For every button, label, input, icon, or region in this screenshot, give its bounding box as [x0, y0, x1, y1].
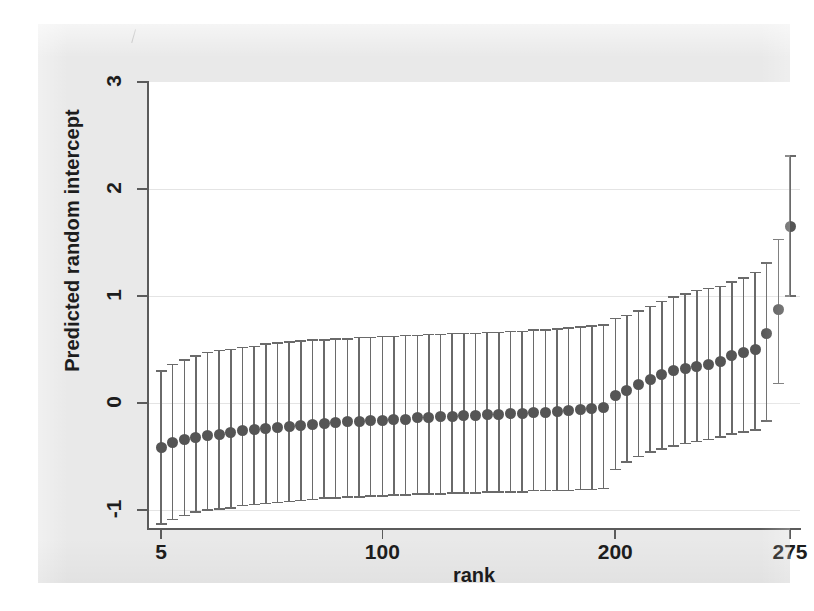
errorbar-cap-upper: [167, 364, 178, 366]
errorbar-cap-lower: [668, 445, 679, 447]
errorbar-cap-lower: [354, 496, 365, 498]
errorbar-cap-upper: [540, 329, 551, 331]
errorbar-cap-upper: [260, 343, 271, 345]
errorbar-cap-lower: [621, 461, 632, 463]
errorbar-cap-lower: [400, 494, 411, 496]
errorbar-cap-lower: [563, 490, 574, 492]
errorbar-cap-lower: [552, 490, 563, 492]
errorbar-cap-lower: [493, 491, 504, 493]
errorbar-cap-lower: [260, 503, 271, 505]
x-axis-line: [147, 528, 801, 530]
errorbar-cap-upper: [680, 293, 691, 295]
errorbar-cap-upper: [482, 332, 493, 334]
x-tick-200: [614, 529, 616, 539]
errorbar-cap-upper: [610, 318, 621, 320]
errorbar-cap-upper: [377, 336, 388, 338]
data-point: [214, 429, 225, 440]
errorbar-cap-lower: [540, 490, 551, 492]
errorbar-cap-lower: [703, 439, 714, 441]
errorbar-cap-upper: [307, 339, 318, 341]
data-point: [680, 363, 691, 374]
errorbar-cap-upper: [156, 370, 167, 372]
errorbar-cap-upper: [190, 355, 201, 357]
errorbar-cap-lower: [750, 429, 761, 431]
scan-artifact-mark: [131, 29, 143, 45]
figure-panel: -10123 5100200275 Predicted random inter…: [38, 24, 790, 583]
errorbar-cap-lower: [633, 456, 644, 458]
x-tick-5: [160, 529, 162, 539]
errorbar-cap-upper: [785, 155, 796, 157]
data-point: [284, 421, 295, 432]
data-point: [365, 415, 376, 426]
errorbar-cap-upper: [621, 315, 632, 317]
data-point: [645, 374, 656, 385]
errorbar-cap-lower: [761, 420, 772, 422]
errorbar-cap-lower: [423, 493, 434, 495]
errorbar-cap-lower: [470, 492, 481, 494]
x-tick-100: [382, 529, 384, 539]
data-point: [656, 369, 667, 380]
data-point: [517, 408, 528, 419]
data-point: [202, 430, 213, 441]
x-tick-label-100: 100: [347, 540, 417, 564]
errorbar-cap-upper: [645, 306, 656, 308]
data-point: [552, 406, 563, 417]
errorbar-cap-lower: [365, 495, 376, 497]
y-tick-label--1: -1: [102, 489, 126, 529]
errorbar-cap-lower: [726, 433, 737, 435]
errorbar-cap-upper: [656, 301, 667, 303]
errorbar-cap-lower: [377, 495, 388, 497]
errorbar-cap-upper: [598, 324, 609, 326]
errorbar-cap-lower: [447, 492, 458, 494]
errorbar-cap-lower: [202, 509, 213, 511]
errorbar-cap-lower: [715, 436, 726, 438]
errorbar-cap-lower: [167, 519, 178, 521]
errorbar-cap-lower: [645, 451, 656, 453]
x-tick-label-275: 275: [755, 540, 814, 564]
errorbar-cap-upper: [388, 336, 399, 338]
y-axis-title: Predicted random intercept: [61, 81, 84, 401]
data-point: [307, 419, 318, 430]
errorbar-cap-upper: [493, 332, 504, 334]
errorbar-cap-lower: [785, 295, 796, 297]
errorbar-cap-upper: [249, 346, 260, 348]
errorbar-cap-upper: [284, 341, 295, 343]
errorbar-cap-upper: [330, 338, 341, 340]
errorbar-cap-lower: [458, 492, 469, 494]
x-axis-title: rank: [148, 564, 800, 587]
data-point: [388, 414, 399, 425]
x-tick-label-5: 5: [126, 540, 196, 564]
errorbar-cap-lower: [528, 490, 539, 492]
gridline-y-2: [148, 189, 800, 190]
errorbar-cap-upper: [365, 337, 376, 339]
errorbar-cap-upper: [761, 262, 772, 264]
data-point: [342, 416, 353, 427]
errorbar-cap-lower: [610, 469, 621, 471]
errorbar-cap-upper: [773, 239, 784, 241]
errorbar-cap-upper: [633, 310, 644, 312]
errorbar-stem: [766, 263, 768, 421]
x-tick-label-200: 200: [580, 540, 650, 564]
data-point: [179, 434, 190, 445]
errorbar-cap-upper: [179, 359, 190, 361]
errorbar-cap-upper: [214, 350, 225, 352]
errorbar-cap-upper: [400, 335, 411, 337]
data-point: [400, 414, 411, 425]
data-point: [610, 390, 621, 401]
gridline-y--1: [148, 510, 800, 511]
errorbar-cap-upper: [691, 290, 702, 292]
errorbar-cap-lower: [190, 511, 201, 513]
errorbar-cap-upper: [272, 342, 283, 344]
data-point: [319, 418, 330, 429]
y-tick-label-2: 2: [102, 168, 126, 208]
errorbar-cap-lower: [319, 497, 330, 499]
errorbar-cap-lower: [342, 496, 353, 498]
errorbar-cap-upper: [342, 338, 353, 340]
errorbar-cap-lower: [773, 383, 784, 385]
errorbar-cap-upper: [575, 326, 586, 328]
y-tick-label-1: 1: [102, 275, 126, 315]
data-point: [354, 416, 365, 427]
data-point: [575, 404, 586, 415]
errorbar-cap-lower: [272, 502, 283, 504]
data-point: [598, 402, 609, 413]
